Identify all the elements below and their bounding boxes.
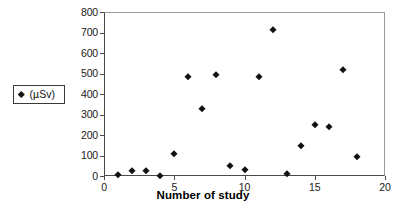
y-tick-label: 100: [58, 150, 98, 160]
diamond-marker-icon: [18, 91, 24, 97]
x-tick-mark: [245, 176, 246, 180]
y-tick-mark: [100, 156, 104, 157]
y-tick-label: 700: [58, 27, 98, 37]
y-tick-label: 300: [58, 109, 98, 119]
plot-area: [104, 12, 385, 176]
y-tick-label: 400: [58, 89, 98, 99]
x-tick-mark: [385, 176, 386, 180]
y-tick-mark: [100, 115, 104, 116]
y-tick-mark: [100, 74, 104, 75]
scatter-chart: (µSv) 010020030040050060070080005101520 …: [0, 0, 406, 213]
y-tick-label: 800: [58, 7, 98, 17]
y-tick-label: 600: [58, 48, 98, 58]
y-tick-mark: [100, 135, 104, 136]
data-point: [283, 171, 291, 179]
y-tick-mark: [100, 53, 104, 54]
y-tick-label: 200: [58, 130, 98, 140]
y-tick-mark: [100, 12, 104, 13]
x-tick-mark: [104, 176, 105, 180]
y-tick-mark: [100, 33, 104, 34]
x-tick-mark: [174, 176, 175, 180]
x-axis-title: Number of study: [0, 189, 406, 201]
y-tick-label: 0: [58, 171, 98, 181]
y-tick-mark: [100, 94, 104, 95]
legend-entry-label: (µSv): [30, 89, 55, 100]
x-tick-mark: [315, 176, 316, 180]
y-tick-label: 500: [58, 68, 98, 78]
